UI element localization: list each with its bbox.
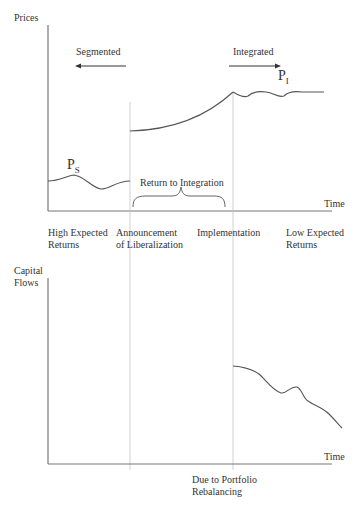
annotation-high-expected-returns: High ExpectedReturns <box>48 227 108 251</box>
ps-price-curve <box>48 175 130 189</box>
annotation-line: Announcement <box>116 227 183 239</box>
pi-letter: P <box>278 68 286 83</box>
annotation-line: of Liberalization <box>116 239 183 251</box>
segmented-label: Segmented <box>76 46 120 58</box>
return-to-integration-brace <box>133 187 225 207</box>
axis-label-line: Flows <box>14 277 43 289</box>
annotation-line: High Expected <box>48 227 108 239</box>
bottom-time-label: Time <box>324 451 345 463</box>
axis-label-line: Capital <box>14 265 43 277</box>
annotation-line: Due to Portfolio <box>192 474 257 486</box>
capital-flows-axis-label: CapitalFlows <box>14 265 43 289</box>
integrated-label: Integrated <box>233 46 274 58</box>
annotation-announcement: Announcementof Liberalization <box>116 227 183 251</box>
arrow-left-icon <box>75 64 81 69</box>
annotation-line: Implementation <box>197 227 260 239</box>
ps-subscript: S <box>75 165 80 175</box>
return-to-integration-label: Return to Integration <box>140 177 224 189</box>
ps-letter: P <box>67 157 75 172</box>
top-time-label: Time <box>324 198 345 210</box>
prices-axis-label: Prices <box>14 12 38 24</box>
ps-label: PS <box>67 159 80 172</box>
pi-subscript: I <box>286 76 289 86</box>
annotation-line: Returns <box>48 239 108 251</box>
annotation-line: Returns <box>286 239 344 251</box>
rising-price-curve <box>130 92 233 131</box>
capital-flows-curve <box>233 366 342 428</box>
pi-label: PI <box>278 70 289 83</box>
diagram-canvas <box>0 0 361 515</box>
pi-price-curve <box>233 92 324 97</box>
annotation-line: Low Expected <box>286 227 344 239</box>
annotation-line: Rebalancing <box>192 486 257 498</box>
portfolio-rebalancing-annotation: Due to PortfolioRebalancing <box>192 474 257 498</box>
annotation-low-expected-returns: Low ExpectedReturns <box>286 227 344 251</box>
annotation-implementation: Implementation <box>197 227 260 239</box>
